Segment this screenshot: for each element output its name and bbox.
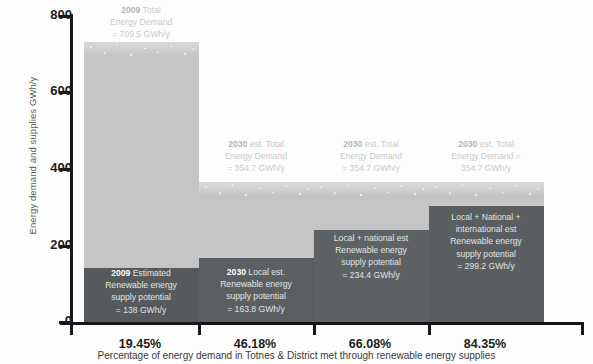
bar-label-supply-2030-local-national-line2: Renewable energy — [335, 245, 407, 255]
bar-label-demand-2030-international: 2030 est. Total Energy Demand = 354.7 GW… — [427, 138, 545, 175]
y-axis-tick-600: 600 — [59, 91, 72, 94]
bar-label-demand-2030-international-line2: Energy Demand = — [451, 151, 521, 161]
x-axis-tick-label-0: 19.45% — [85, 337, 195, 351]
chart-canvas: Energy demand and supplies GWh/y 800 600… — [0, 0, 593, 364]
y-axis-tick-label-800: 800 — [20, 7, 72, 22]
bar-label-supply-2030-international-line3: Renewable energy — [450, 236, 522, 246]
bar-label-supply-2030-local-line2: Renewable energy — [220, 279, 292, 289]
bar-label-supply-2030-international-line2: international est — [456, 224, 517, 234]
bar-label-demand-2030-local-national-line1: est. Total — [362, 139, 399, 149]
bar-label-demand-2030-local-national-line3: = 354.7 GWh/y — [342, 163, 400, 173]
x-axis-tick-1 — [198, 322, 201, 335]
bar-label-supply-2030-local-line4: = 163.8 GWh/y — [227, 304, 285, 314]
bar-label-demand-2009-year: 2009 — [121, 5, 140, 15]
bar-label-supply-2030-local-national-line3: supply potential — [341, 257, 401, 267]
y-axis-tick-400: 400 — [59, 168, 72, 171]
bar-label-supply-2030-local-national-line4: = 234.4 GWh/y — [342, 270, 400, 280]
bar-label-demand-2030-international-year: 2030 — [458, 139, 477, 149]
bar-label-demand-2030-local: 2030 est. Total Energy Demand = 354.7 GW… — [197, 138, 315, 175]
bar-label-supply-2009: 2009 Estimated Renewable energy supply p… — [83, 267, 199, 316]
bar-label-demand-2030-local-line3: = 354.7 GWh/y — [227, 163, 285, 173]
x-axis-caption: Percentage of energy demand in Totnes & … — [0, 350, 593, 361]
bar-label-supply-2030-international: Local + National + international est Ren… — [428, 211, 544, 272]
bar-label-demand-2030-local-national-year: 2030 — [343, 139, 362, 149]
x-axis-tick-2 — [313, 322, 316, 335]
bar-label-supply-2030-local-line1: Local est. — [246, 267, 285, 277]
bar-label-demand-2030-local-line1: est. Total — [247, 139, 284, 149]
bar-label-demand-2030-local-line2: Energy Demand — [225, 151, 287, 161]
bar-label-demand-2030-local-year: 2030 — [228, 139, 247, 149]
bar-label-demand-2030-international-line3: 354.7 GWh/y — [461, 163, 511, 173]
bar-label-supply-2030-local-national-line1: Local + national est — [334, 233, 408, 243]
y-axis-tick-label-200: 200 — [20, 237, 72, 252]
bar-label-supply-2009-line3: supply potential — [111, 292, 171, 302]
y-axis-tick-label-0: 0 — [20, 313, 72, 328]
bar-label-demand-2030-local-national-line2: Energy Demand — [340, 151, 402, 161]
bar-label-demand-2030-international-line1: est. Total — [477, 139, 514, 149]
x-axis-tick-label-2: 66.08% — [315, 337, 425, 351]
bar-label-supply-2009-year: 2009 — [111, 268, 130, 278]
bar-label-supply-2009-line2: Renewable energy — [105, 280, 177, 290]
bar-label-demand-2009: 2009 Total Energy Demand = 709.5 GWh/y — [82, 4, 200, 41]
bar-label-demand-2030-local-national: 2030 est. Total Energy Demand = 354.7 GW… — [312, 138, 430, 175]
x-axis-tick-0 — [70, 322, 73, 335]
x-axis-tick-4 — [581, 322, 584, 335]
x-axis-line — [60, 322, 583, 325]
y-axis-tick-label-600: 600 — [20, 83, 72, 98]
bar-label-supply-2030-international-line1: Local + National + — [451, 212, 520, 222]
y-axis-tick-label-400: 400 — [20, 160, 72, 175]
bar-label-demand-2009-line2: Energy Demand — [110, 17, 172, 27]
x-axis-tick-label-3: 84.35% — [430, 337, 540, 351]
y-axis-tick-800: 800 — [59, 15, 72, 18]
bar-label-supply-2030-local: 2030 Local est. Renewable energy supply … — [198, 266, 314, 315]
x-axis-tick-label-1: 46.18% — [200, 337, 310, 351]
bar-label-supply-2030-local-national: Local + national est Renewable energy su… — [313, 232, 429, 281]
bar-label-supply-2030-international-line5: = 299.2 GWh/y — [457, 261, 515, 271]
bar-label-supply-2030-local-year: 2030 — [227, 267, 246, 277]
bar-label-supply-2030-local-line3: supply potential — [226, 291, 286, 301]
bar-label-supply-2009-line1: Estimated — [130, 268, 171, 278]
x-axis-tick-3 — [428, 322, 431, 335]
bar-label-supply-2009-line4: = 138 GWh/y — [116, 305, 166, 315]
bar-label-supply-2030-international-line4: supply potential — [456, 249, 516, 259]
bar-label-demand-2009-line3: = 709.5 GWh/y — [112, 29, 170, 39]
bar-label-demand-2009-line1: Total — [140, 5, 160, 15]
y-axis-tick-200: 200 — [59, 245, 72, 248]
